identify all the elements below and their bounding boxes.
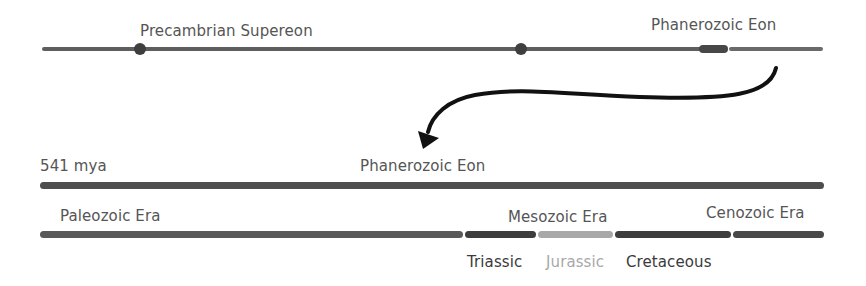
cenozoic-segment bbox=[733, 231, 824, 238]
cretaceous-label: Cretaceous bbox=[626, 253, 712, 271]
triassic-label: Triassic bbox=[467, 253, 522, 271]
jurassic-label: Jurassic bbox=[546, 253, 604, 271]
paleozoic-segment bbox=[40, 231, 463, 238]
mesozoic-label: Mesozoic Era bbox=[508, 208, 607, 226]
triassic-segment bbox=[465, 231, 536, 238]
start-date-label: 541 mya bbox=[40, 157, 107, 175]
paleozoic-label: Paleozoic Era bbox=[60, 207, 161, 225]
jurassic-segment bbox=[538, 231, 613, 238]
zoom-arrow-icon bbox=[0, 0, 866, 286]
cenozoic-label: Cenozoic Era bbox=[706, 204, 805, 222]
cretaceous-segment bbox=[615, 231, 731, 238]
phanerozoic-line bbox=[40, 182, 824, 189]
phanerozoic-title: Phanerozoic Eon bbox=[360, 157, 485, 175]
